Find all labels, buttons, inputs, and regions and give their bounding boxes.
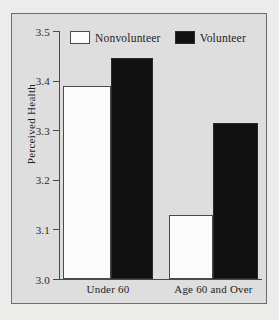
tick-line	[53, 279, 60, 280]
y-tick-label: 3.3	[36, 125, 50, 137]
tick-line	[53, 180, 60, 181]
legend-item-volunteer[interactable]: Volunteer	[175, 31, 246, 44]
y-tick-label: 3.4	[36, 75, 50, 87]
figure-container: Perceived Health 3.5 3.4 3.3 3.2 3.1	[0, 0, 279, 320]
tick-line	[53, 130, 60, 131]
white-square-icon	[70, 31, 90, 44]
y-tick-label: 3.5	[36, 26, 50, 38]
bar-age60over-volunteer[interactable]	[213, 123, 258, 279]
legend-item-nonvolunteer[interactable]: Nonvolunteer	[70, 31, 161, 44]
legend-label: Volunteer	[200, 32, 246, 44]
y-tick-3-2: 3.2	[53, 180, 60, 181]
chart-panel: Perceived Health 3.5 3.4 3.3 3.2 3.1	[11, 13, 267, 304]
tick-line	[53, 31, 60, 32]
y-tick-3-4: 3.4	[53, 81, 60, 82]
y-tick-3-0: 3.0	[53, 279, 60, 280]
y-tick-label: 3.0	[36, 274, 50, 286]
plot-area: Perceived Health 3.5 3.4 3.3 3.2 3.1	[12, 14, 266, 303]
y-tick-label: 3.1	[36, 224, 50, 236]
black-square-icon	[175, 31, 195, 44]
bar-age60over-nonvolunteer[interactable]	[169, 215, 213, 279]
bar-under60-nonvolunteer[interactable]	[63, 86, 111, 279]
y-tick-3-3: 3.3	[53, 130, 60, 131]
tick-line	[53, 229, 60, 230]
y-tick-3-5: 3.5	[53, 31, 60, 32]
legend-label: Nonvolunteer	[95, 32, 161, 44]
x-category-label-age60over: Age 60 and Over	[161, 283, 266, 295]
y-tick-3-1: 3.1	[53, 229, 60, 230]
y-axis-line	[59, 31, 60, 280]
bar-under60-volunteer[interactable]	[111, 58, 153, 279]
x-axis-line	[59, 279, 262, 280]
y-tick-label: 3.2	[36, 174, 50, 186]
x-category-label-under60: Under 60	[63, 283, 153, 295]
tick-line	[53, 81, 60, 82]
legend: Nonvolunteer Volunteer	[70, 31, 246, 44]
